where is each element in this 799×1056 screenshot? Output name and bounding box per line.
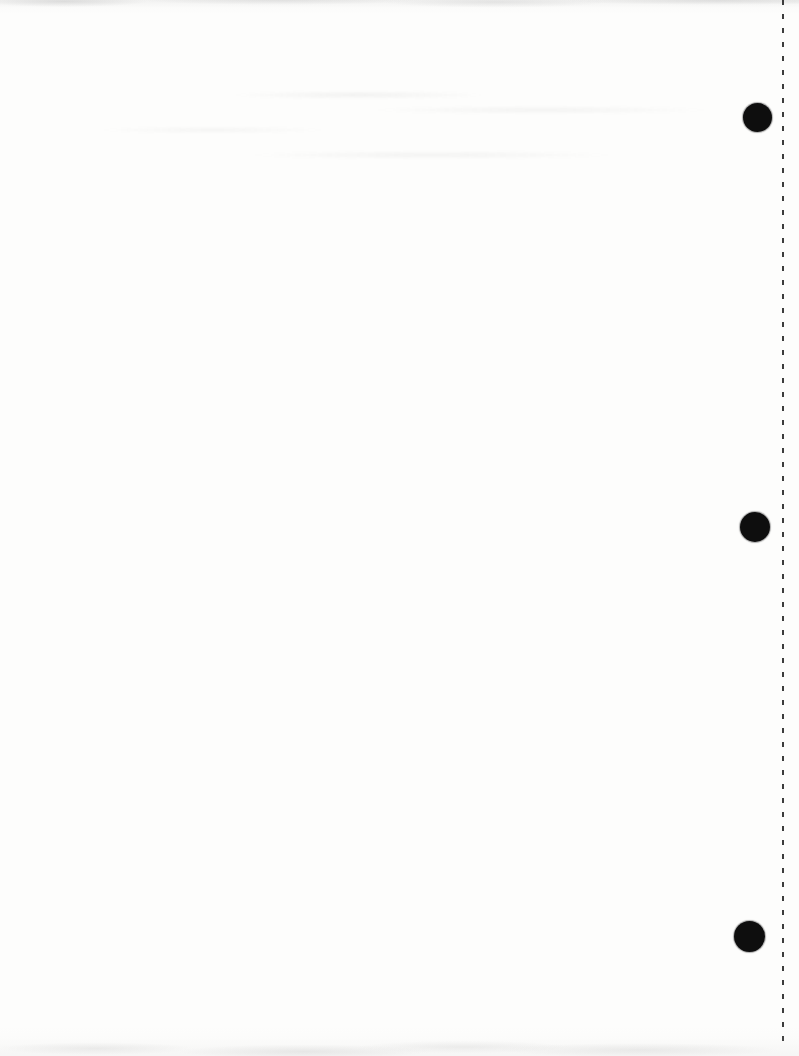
perforation-dashed-line bbox=[782, 0, 784, 1045]
bleed-through-ghost-marks bbox=[30, 75, 760, 175]
hole-punch bbox=[743, 103, 772, 132]
scan-noise-bottom-edge bbox=[0, 1026, 799, 1056]
hole-punch bbox=[740, 512, 770, 542]
scanned-page bbox=[0, 0, 799, 1056]
hole-punch bbox=[734, 921, 765, 952]
scan-noise-top-edge bbox=[0, 0, 799, 14]
